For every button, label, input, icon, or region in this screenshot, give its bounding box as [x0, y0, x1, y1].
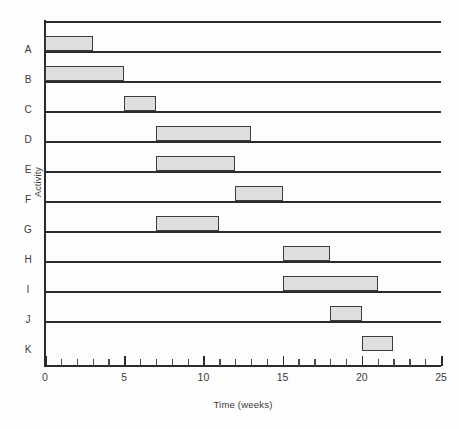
x-tick-minor [346, 359, 347, 366]
gantt-bar[interactable] [330, 306, 362, 321]
gantt-bar[interactable] [156, 126, 251, 141]
x-tick-minor [156, 359, 157, 366]
row-baseline [45, 291, 441, 293]
category-label: J [18, 315, 38, 325]
x-axis-line [45, 365, 441, 367]
row-baseline [45, 171, 441, 173]
x-axis-title: Time (weeks) [45, 399, 441, 410]
x-tick-minor [235, 359, 236, 366]
x-tick-minor [409, 359, 410, 366]
category-label: D [18, 135, 38, 145]
x-tick-minor [140, 359, 141, 366]
category-label: H [18, 255, 38, 265]
x-tick-minor [425, 359, 426, 366]
category-label: A [18, 45, 38, 55]
x-tick-minor [93, 359, 94, 366]
gantt-bar[interactable] [45, 66, 124, 81]
x-tick-minor [378, 359, 379, 366]
category-label: C [18, 105, 38, 115]
x-tick-minor [330, 359, 331, 366]
x-tick-major [362, 356, 364, 366]
x-tick-major [283, 356, 285, 366]
gantt-bar[interactable] [235, 186, 283, 201]
row-baseline [45, 261, 441, 263]
x-tick-minor [77, 359, 78, 366]
gantt-bar[interactable] [156, 216, 219, 231]
x-tick-minor [188, 359, 189, 366]
x-tick-major [124, 356, 126, 366]
x-tick-label: 15 [268, 371, 298, 383]
row-baseline [45, 201, 441, 203]
x-tick-label: 5 [109, 371, 139, 383]
gantt-bar[interactable] [362, 336, 394, 351]
gantt-bar[interactable] [283, 276, 378, 291]
category-label: G [18, 225, 38, 235]
row-baseline [45, 231, 441, 233]
plot-area [45, 21, 441, 366]
category-label: K [18, 345, 38, 355]
gantt-bar[interactable] [45, 36, 93, 51]
x-tick-label: 10 [188, 371, 218, 383]
x-tick-major [441, 356, 443, 366]
x-tick-minor [219, 359, 220, 366]
gantt-chart: Activity ABCDEFGHIJK 0510152025 Time (we… [0, 0, 459, 429]
category-label: B [18, 75, 38, 85]
x-tick-minor [393, 359, 394, 366]
x-tick-minor [251, 359, 252, 366]
row-baseline [45, 111, 441, 113]
x-tick-minor [108, 359, 109, 366]
row-baseline [45, 141, 441, 143]
gantt-bar[interactable] [156, 156, 235, 171]
row-baseline [45, 81, 441, 83]
x-tick-minor [298, 359, 299, 366]
x-tick-minor [267, 359, 268, 366]
x-tick-minor [61, 359, 62, 366]
plot-top-frame [45, 21, 441, 23]
row-baseline [45, 321, 441, 323]
row-baseline [45, 51, 441, 53]
gantt-bar[interactable] [124, 96, 156, 111]
x-tick-label: 0 [30, 371, 60, 383]
category-label: F [18, 195, 38, 205]
x-tick-minor [314, 359, 315, 366]
x-tick-label: 25 [426, 371, 456, 383]
x-tick-minor [172, 359, 173, 366]
x-tick-label: 20 [347, 371, 377, 383]
x-tick-major [203, 356, 205, 366]
x-tick-major [45, 356, 47, 366]
gantt-bar[interactable] [283, 246, 331, 261]
category-label: E [18, 165, 38, 175]
category-label: I [18, 285, 38, 295]
